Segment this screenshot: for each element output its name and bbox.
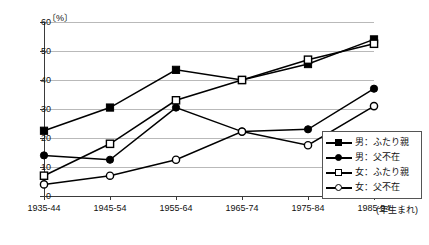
gridline (44, 80, 374, 81)
x-tick-label: 1965-74 (212, 203, 272, 213)
x-tick-mark (176, 196, 177, 200)
legend-key-filled-square-icon (326, 137, 352, 148)
legend-key-open-square-icon (326, 167, 352, 178)
legend-item: 女：ふたり親 (326, 165, 417, 180)
y-tick-label: 60 (27, 17, 51, 27)
x-tick-label: 1935-44 (14, 203, 74, 213)
x-tick-label: 1945-54 (80, 203, 140, 213)
gridline (44, 22, 374, 23)
x-tick-label: 1955-64 (146, 203, 206, 213)
y-tick-label: 50 (27, 46, 51, 56)
legend-label: 男：父不在 (355, 152, 400, 163)
x-tick-mark (44, 196, 45, 200)
legend: 男：ふたり親 男：父不在 女：ふたり親 女：父不在 (322, 131, 422, 199)
gridline (44, 51, 374, 52)
legend-label: 男：ふたり親 (355, 137, 409, 148)
x-tick-mark (110, 196, 111, 200)
legend-item: 女：父不在 (326, 180, 417, 195)
legend-label: 女：ふたり親 (355, 167, 409, 178)
x-tick-label: 1975-84 (278, 203, 338, 213)
y-tick-label: 40 (27, 75, 51, 85)
legend-label: 女：父不在 (355, 182, 400, 193)
legend-key-open-circle-icon (326, 182, 352, 193)
y-tick-label: 0 (27, 191, 51, 201)
x-axis-label: (年生まれ) (376, 203, 418, 216)
x-tick-mark (242, 196, 243, 200)
y-tick-label: 20 (27, 133, 51, 143)
legend-item: 男：ふたり親 (326, 135, 417, 150)
x-tick-mark (308, 196, 309, 200)
y-tick-label: 10 (27, 162, 51, 172)
line-chart: 〔%〕 0102030405060 1935-441945-541955-641… (0, 0, 429, 245)
gridline (44, 109, 374, 110)
legend-item: 男：父不在 (326, 150, 417, 165)
y-tick-label: 30 (27, 104, 51, 114)
legend-key-filled-circle-icon (326, 152, 352, 163)
